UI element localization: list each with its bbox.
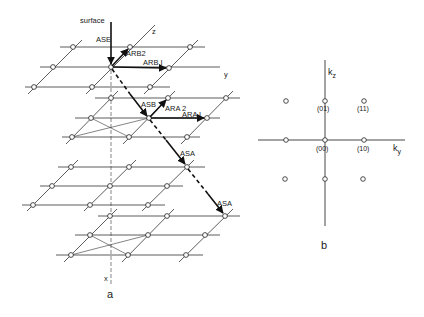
- panel-a-label: a: [107, 288, 114, 300]
- figure-svg: surface z ASE ARB2 ARB I y ASB ARA 2 ARA…: [0, 0, 424, 317]
- spot-label-01: (01): [317, 105, 329, 113]
- lattice-layer-1: [25, 25, 220, 94]
- asb-dashed: [112, 69, 130, 94]
- asb-label: ASB: [141, 100, 156, 109]
- atoms: [31, 45, 229, 258]
- panel-b: [258, 60, 405, 226]
- spot-label-10: (10): [357, 145, 369, 153]
- asa-upper-label: ASA: [180, 149, 195, 158]
- surface-label: surface: [80, 16, 105, 25]
- figure: surface z ASE ARB2 ARB I y ASB ARA 2 ARA…: [0, 0, 424, 317]
- ara1-label: ARA I: [182, 110, 201, 119]
- asa-lower-label: ASA: [217, 199, 232, 208]
- asa-dashed-2: [188, 169, 208, 194]
- x-axis-label: x: [104, 274, 108, 283]
- spot-label-11: (11): [357, 105, 369, 113]
- ky-label: ky: [393, 143, 402, 156]
- arb2-label: ARB2: [126, 49, 146, 58]
- ase-label: ASE: [96, 35, 111, 44]
- panel-a: [22, 22, 240, 285]
- y-axis-label: y: [224, 70, 228, 79]
- z-axis-label: z: [152, 27, 156, 36]
- arb1-arrow: [113, 67, 166, 68]
- kz-label: kz: [328, 67, 337, 79]
- arb1-label: ARB I: [143, 58, 163, 67]
- panel-b-label: b: [321, 239, 327, 251]
- spot-label-00: (00): [316, 145, 328, 153]
